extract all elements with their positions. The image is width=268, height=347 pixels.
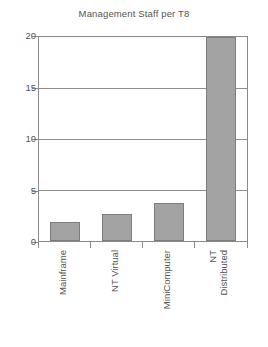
- y-axis-label-15: 15: [25, 83, 36, 93]
- bar-nt-distributed: [206, 37, 235, 241]
- x-axis-tick-1: [90, 242, 91, 248]
- x-axis-label-nt-virtual: NT Virtual: [109, 250, 121, 346]
- x-axis-label-nt-distributed-line2: Distributed: [218, 250, 229, 346]
- x-axis-label-nt-distributed: NT Distributed: [207, 250, 231, 346]
- bar-mainframe: [50, 222, 79, 241]
- x-axis-label-mainframe: Mainframe: [57, 250, 69, 346]
- y-axis-label-10: 10: [25, 134, 36, 144]
- plot-area: [38, 36, 248, 242]
- bars-layer: [39, 37, 247, 241]
- x-axis-tick-0: [38, 242, 39, 248]
- y-axis-label-5: 5: [31, 186, 36, 196]
- chart-title: Management Staff per T8: [0, 8, 268, 19]
- x-axis-tick-4: [247, 242, 248, 248]
- y-axis-label-0: 0: [31, 237, 36, 247]
- bar-nt-virtual: [102, 214, 131, 241]
- x-axis-tick-3: [194, 242, 195, 248]
- bar-minicomputer: [154, 203, 183, 241]
- y-axis-label-20: 20: [25, 31, 36, 41]
- x-axis-tick-2: [142, 242, 143, 248]
- x-axis-label-nt-distributed-line1: NT: [207, 250, 218, 346]
- bar-chart: Management Staff per T8 20 15 10 5 0 Mai…: [0, 0, 268, 347]
- x-axis-label-minicomputer: MiniComputer: [161, 250, 173, 346]
